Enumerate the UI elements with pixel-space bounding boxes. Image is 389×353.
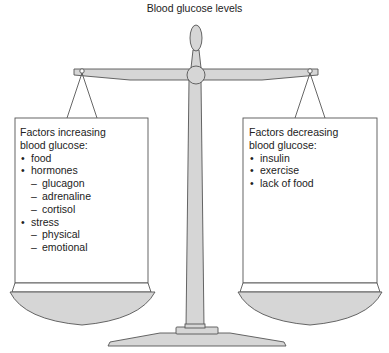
factor-adrenaline: adrenaline bbox=[20, 190, 146, 203]
decreasing-factors-list: Factors decreasing blood glucose: insuli… bbox=[249, 126, 375, 190]
scale-base bbox=[108, 333, 286, 346]
scale-finial bbox=[190, 25, 202, 51]
left-heading-line2: blood glucose: bbox=[20, 139, 146, 152]
factor-hormones: hormones bbox=[20, 164, 146, 177]
scale-neck bbox=[191, 50, 201, 68]
factor-emotional: emotional bbox=[20, 241, 146, 254]
factor-glucagon: glucagon bbox=[20, 177, 146, 190]
factor-cortisol: cortisol bbox=[20, 203, 146, 216]
diagram-title: Blood glucose levels bbox=[0, 2, 389, 14]
right-heading-line2: blood glucose: bbox=[249, 139, 375, 152]
scale-pivot bbox=[187, 66, 205, 84]
right-pan-rim bbox=[240, 283, 380, 292]
left-heading-line1: Factors increasing bbox=[20, 126, 146, 139]
factor-food: food bbox=[20, 152, 146, 165]
factor-insulin: insulin bbox=[249, 152, 375, 165]
right-heading-line1: Factors decreasing bbox=[249, 126, 375, 139]
left-pan-rim bbox=[12, 283, 151, 292]
right-pan bbox=[238, 292, 382, 325]
left-pan bbox=[10, 292, 155, 325]
factor-lack-of-food: lack of food bbox=[249, 177, 375, 190]
scale-column bbox=[186, 80, 204, 327]
factor-stress: stress bbox=[20, 216, 146, 229]
left-hook bbox=[80, 69, 84, 73]
factor-exercise: exercise bbox=[249, 164, 375, 177]
increasing-factors-list: Factors increasing blood glucose: food h… bbox=[20, 126, 146, 254]
right-hook bbox=[308, 69, 312, 73]
factor-physical: physical bbox=[20, 228, 146, 241]
